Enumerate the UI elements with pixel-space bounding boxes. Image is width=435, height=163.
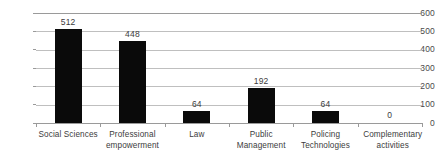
bar-professional-empowerment bbox=[119, 41, 146, 123]
category-label-complementary-activities: Complementary activities bbox=[354, 129, 432, 151]
category-label-law: Law bbox=[161, 129, 233, 140]
category-label-line: Policing bbox=[289, 129, 361, 140]
gridline-200 bbox=[36, 86, 422, 87]
bar-policing-technologies bbox=[312, 111, 339, 123]
category-label-social-sciences: Social Sciences bbox=[32, 129, 104, 140]
gridline-600 bbox=[36, 13, 422, 14]
x-tick-mark bbox=[165, 123, 166, 127]
gridline-100 bbox=[36, 105, 422, 106]
category-label-line: Professional bbox=[96, 129, 168, 140]
bar-value-label: 192 bbox=[229, 77, 293, 86]
bar-social-sciences bbox=[55, 29, 82, 123]
category-label-line: Social Sciences bbox=[32, 129, 104, 140]
category-label-line: Public bbox=[225, 129, 297, 140]
x-tick-mark bbox=[422, 123, 423, 127]
category-label-line: activities bbox=[354, 140, 432, 151]
x-tick-mark bbox=[100, 123, 101, 127]
plot-area bbox=[36, 13, 422, 123]
bar-value-label: 448 bbox=[100, 30, 164, 39]
bar-value-label: 64 bbox=[165, 100, 229, 109]
x-tick-mark bbox=[229, 123, 230, 127]
bar-chart: 600 500 400 300 200 100 0 512 448 64 bbox=[0, 0, 435, 163]
bar-value-label: 64 bbox=[293, 100, 357, 109]
category-label-line: Law bbox=[161, 129, 233, 140]
bar-public-management bbox=[248, 88, 275, 123]
bar-value-label: 512 bbox=[36, 18, 100, 27]
category-label-line: Complementary bbox=[354, 129, 432, 140]
category-label-line: Management bbox=[225, 140, 297, 151]
bar-law bbox=[183, 111, 210, 123]
category-label-policing-technologies: Policing Technologies bbox=[289, 129, 361, 151]
category-label-public-management: Public Management bbox=[225, 129, 297, 151]
category-label-line: Technologies bbox=[289, 140, 361, 151]
bar-value-label: 0 bbox=[358, 111, 422, 120]
x-tick-mark bbox=[358, 123, 359, 127]
category-label-line: empowerment bbox=[96, 140, 168, 151]
x-tick-mark bbox=[293, 123, 294, 127]
gridline-300 bbox=[36, 68, 422, 69]
x-tick-mark bbox=[36, 123, 37, 127]
gridline-400 bbox=[36, 50, 422, 51]
category-label-professional-empowerment: Professional empowerment bbox=[96, 129, 168, 151]
gridline-500 bbox=[36, 31, 422, 32]
